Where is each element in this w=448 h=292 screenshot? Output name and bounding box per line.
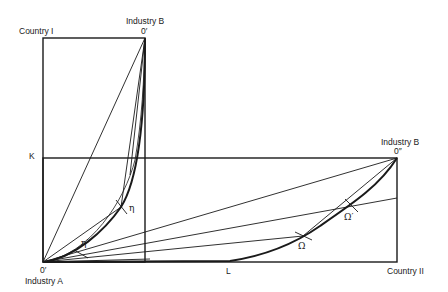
country-1-label: Country I: [19, 26, 54, 36]
origin-right-label: 0″: [394, 146, 402, 156]
industry-a-label: Industry A: [25, 276, 63, 286]
edgeworth-box-diagram: Country I Industry B 0′ Industry B 0″ K …: [0, 0, 448, 292]
labor-axis-label: L: [226, 266, 231, 276]
eta-prime-label: η′: [81, 238, 88, 248]
rays-from-origin-b-country-2: [303, 158, 397, 236]
country-2-label: Country II: [387, 266, 424, 276]
industry-b-top-label: Industry B: [126, 16, 165, 26]
eta-label: η: [129, 203, 134, 213]
capital-axis-label: K: [29, 151, 35, 161]
rays-from-origin-b-country-1: [43, 38, 145, 262]
origin-top-label: 0′: [141, 26, 148, 36]
omega-prime-label: Ω′: [344, 212, 354, 222]
origin-bottom-label: 0′: [40, 265, 47, 275]
omega-label: Ω: [298, 241, 305, 251]
